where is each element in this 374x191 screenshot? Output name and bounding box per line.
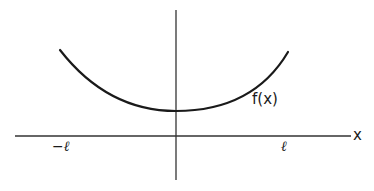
tick-label-positive-l: ℓ bbox=[281, 139, 287, 153]
graph-canvas bbox=[0, 0, 374, 191]
tick-label-negative-l: −ℓ bbox=[52, 139, 70, 153]
x-axis-label: x bbox=[353, 128, 362, 143]
curve-label: f(x) bbox=[252, 92, 278, 107]
function-graph-figure: f(x) x −ℓ ℓ bbox=[0, 0, 374, 191]
